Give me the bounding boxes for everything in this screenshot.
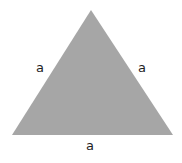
left-side-label: a [36,60,44,75]
triangle-diagram: a a a [0,0,182,163]
right-side-label: a [138,60,146,75]
bottom-side-label: a [86,138,94,153]
